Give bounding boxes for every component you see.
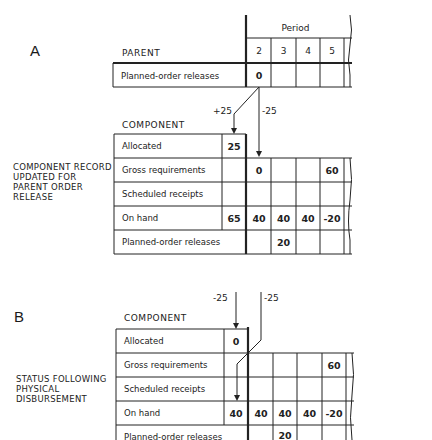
arrow-plus25-line — [234, 87, 259, 130]
arrowhead-on-hand-b — [234, 395, 240, 401]
wavy-edge-b — [351, 353, 354, 440]
arrowhead-allocated-a — [231, 128, 237, 134]
arrowhead-gross-a — [256, 151, 262, 157]
arrowhead-allocated-b — [233, 323, 239, 329]
table-grid-lines — [0, 0, 432, 440]
wavy-edge-a-parent — [349, 15, 352, 87]
